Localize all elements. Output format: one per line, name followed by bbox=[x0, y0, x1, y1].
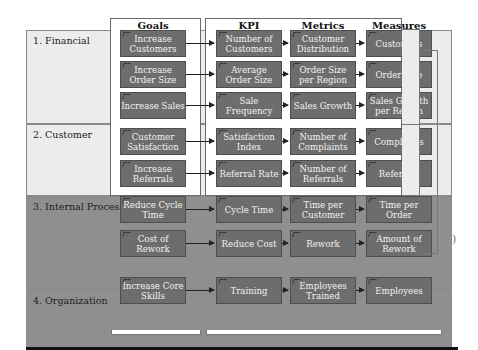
kpi-icon bbox=[218, 162, 227, 167]
kpi-label: Satisfaction Index bbox=[217, 132, 281, 152]
metric-box: Rework bbox=[290, 230, 356, 257]
goal-icon bbox=[122, 94, 131, 99]
goal-box: Increase Order Size bbox=[120, 61, 186, 88]
measure-box: Employees bbox=[366, 277, 432, 304]
kpi-label: Number of Customers bbox=[217, 34, 281, 54]
metric-icon bbox=[292, 232, 301, 237]
kpi-label: Cycle Time bbox=[225, 205, 274, 215]
goal-label: Reduce Cycle Time bbox=[121, 200, 185, 220]
goal-label: Increase Referrals bbox=[121, 164, 185, 184]
kpi-box: Reduce Cost bbox=[216, 230, 282, 257]
kpi-box: Cycle Time bbox=[216, 196, 282, 223]
bottom-bracket-kpi-measures bbox=[206, 330, 442, 335]
kpi-box: Referral Rate bbox=[216, 160, 282, 187]
kpi-box: Number of Customers bbox=[216, 30, 282, 57]
metric-box: Number of Complaints bbox=[290, 128, 356, 155]
band-label-financial: 1. Financial bbox=[33, 35, 90, 46]
goal-label: Increase Customers bbox=[121, 34, 185, 54]
measure-icon bbox=[368, 162, 377, 167]
goal-label: Customer Satisfaction bbox=[121, 132, 185, 152]
measure-icon bbox=[368, 130, 377, 135]
kpi-box: Sale Frequency bbox=[216, 92, 282, 119]
kpi-box: Average Order Size bbox=[216, 61, 282, 88]
metric-box: Order Size per Region bbox=[290, 61, 356, 88]
band-label-organization: 4. Organization bbox=[33, 295, 108, 306]
goal-box: Reduce Cycle Time bbox=[120, 196, 186, 223]
goal-label: Increase Sales bbox=[121, 101, 185, 111]
measure-icon bbox=[368, 279, 377, 284]
arrow-connector bbox=[186, 209, 214, 210]
goal-box: Cost of Rework bbox=[120, 230, 186, 257]
right-bracket-outer bbox=[402, 29, 420, 196]
right-brace-line bbox=[420, 50, 438, 254]
arrow-connector bbox=[356, 290, 364, 291]
metric-label: Customer Distribution bbox=[291, 34, 355, 54]
metric-label: Number of Referrals bbox=[291, 164, 355, 184]
goal-label: Increase Order Size bbox=[121, 65, 185, 85]
goal-box: Customer Satisfaction bbox=[120, 128, 186, 155]
arrow-connector bbox=[186, 141, 214, 142]
goal-label: Cost of Rework bbox=[121, 234, 185, 254]
kpi-label: Referral Rate bbox=[220, 169, 279, 179]
kpi-icon bbox=[218, 198, 227, 203]
arrow-connector bbox=[186, 43, 214, 44]
arrow-connector bbox=[356, 141, 364, 142]
measure-icon bbox=[368, 63, 377, 68]
arrow-connector bbox=[356, 74, 364, 75]
arrow-connector bbox=[356, 43, 364, 44]
arrow-connector bbox=[282, 173, 288, 174]
arrow-connector bbox=[356, 209, 364, 210]
kpi-label: Sale Frequency bbox=[217, 96, 281, 116]
kpi-icon bbox=[218, 279, 227, 284]
arrow-connector bbox=[356, 243, 364, 244]
goal-box: Increase Core Skills bbox=[120, 277, 186, 304]
metric-box: Sales Growth bbox=[290, 92, 356, 119]
measure-icon bbox=[368, 32, 377, 37]
kpi-label: Average Order Size bbox=[217, 65, 281, 85]
goal-box: Increase Customers bbox=[120, 30, 186, 57]
arrow-connector bbox=[186, 105, 214, 106]
arrow-connector bbox=[282, 105, 288, 106]
goal-box: Increase Sales bbox=[120, 92, 186, 119]
metric-box: Time per Customer bbox=[290, 196, 356, 223]
metric-label: Rework bbox=[306, 239, 339, 249]
kpi-label: Training bbox=[230, 286, 267, 296]
kpi-box: Satisfaction Index bbox=[216, 128, 282, 155]
metric-box: Customer Distribution bbox=[290, 30, 356, 57]
metric-box: Employees Trained bbox=[290, 277, 356, 304]
kpi-box: Training bbox=[216, 277, 282, 304]
kpi-icon bbox=[218, 232, 227, 237]
arrow-connector bbox=[356, 105, 364, 106]
arrow-connector bbox=[282, 43, 288, 44]
metric-label: Order Size per Region bbox=[291, 65, 355, 85]
arrow-connector bbox=[186, 290, 214, 291]
arrow-connector bbox=[356, 173, 364, 174]
arrow-connector bbox=[186, 74, 214, 75]
measure-label: Employees bbox=[375, 286, 422, 296]
metric-label: Time per Customer bbox=[291, 200, 355, 220]
goal-box: Increase Referrals bbox=[120, 160, 186, 187]
metric-label: Number of Complaints bbox=[291, 132, 355, 152]
metric-label: Sales Growth bbox=[294, 101, 352, 111]
metric-label: Employees Trained bbox=[291, 281, 355, 301]
right-bracket-divider bbox=[402, 124, 420, 125]
bottom-bracket-goals bbox=[111, 330, 201, 335]
arrow-connector bbox=[186, 243, 214, 244]
metric-box: Number of Referrals bbox=[290, 160, 356, 187]
arrow-connector bbox=[282, 290, 288, 291]
arrow-connector bbox=[186, 173, 214, 174]
arrow-connector bbox=[282, 209, 288, 210]
kpi-label: Reduce Cost bbox=[222, 239, 277, 249]
arrow-connector bbox=[282, 243, 288, 244]
goal-label: Increase Core Skills bbox=[121, 281, 185, 301]
arrow-connector bbox=[282, 74, 288, 75]
band-label-customer: 2. Customer bbox=[33, 129, 92, 140]
brace-icon: ) bbox=[452, 233, 456, 246]
metric-icon bbox=[292, 94, 301, 99]
arrow-connector bbox=[282, 141, 288, 142]
